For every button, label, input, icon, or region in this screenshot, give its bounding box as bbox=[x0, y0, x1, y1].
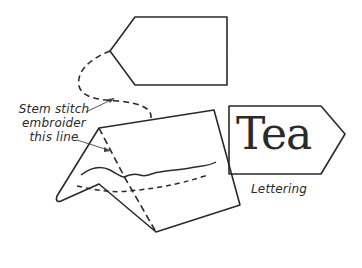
tea-lettering: Tea bbox=[236, 108, 311, 159]
top-tag-shape bbox=[110, 17, 227, 85]
lettering-caption: Lettering bbox=[249, 182, 309, 196]
dashed-stitch-line bbox=[77, 175, 208, 192]
annotation-line-3: this line bbox=[14, 130, 94, 144]
annotation-line-2: embroider bbox=[14, 116, 94, 130]
annotation-line-1: Stem stitch bbox=[14, 102, 94, 116]
wavy-fill-line bbox=[81, 162, 216, 177]
fold-line-dashed bbox=[99, 128, 156, 232]
annotation-label: Stem stitch embroider this line bbox=[14, 102, 94, 144]
